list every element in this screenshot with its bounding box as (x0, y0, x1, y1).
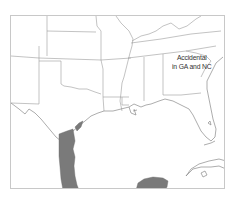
range-yucatan (136, 177, 168, 189)
range-areas (59, 121, 168, 189)
annotation-line-2: in GA and NC (172, 62, 212, 71)
coastlines (11, 57, 225, 189)
range-map (11, 16, 225, 189)
accidental-annotation: Accidental in GA and NC (172, 53, 212, 71)
range-texas-mexico-coast (59, 129, 79, 189)
annotation-line-1: Accidental (172, 53, 212, 62)
map-frame (10, 15, 225, 189)
